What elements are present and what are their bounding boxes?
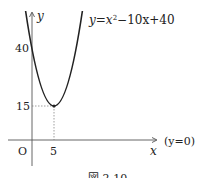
x-axis-note: (y=0) bbox=[164, 135, 195, 148]
y-axis-label: y bbox=[36, 9, 44, 23]
figure-caption: 図 2-10 bbox=[88, 172, 127, 178]
x-axis-label: x bbox=[150, 144, 157, 158]
equation-label: y=x2−10x+40 bbox=[88, 13, 175, 27]
parabola-diagram: y 40 15 O 5 x (y=0) y=x2−10x+40 図 2-10 bbox=[0, 0, 206, 178]
tick-label-5: 5 bbox=[50, 145, 57, 158]
origin-label: O bbox=[18, 145, 27, 158]
parabola-curve bbox=[26, 11, 83, 106]
vertex-point bbox=[52, 104, 55, 107]
svg-text:y=x2−10x+40: y=x2−10x+40 bbox=[88, 13, 175, 27]
tick-label-15: 15 bbox=[16, 100, 30, 113]
tick-label-40: 40 bbox=[15, 42, 29, 55]
